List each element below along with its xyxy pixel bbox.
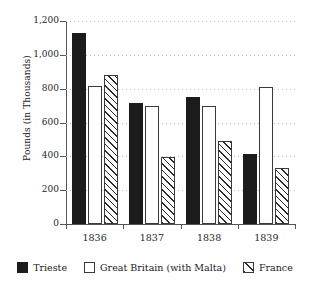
- y-tick-label: 1,200: [19, 15, 59, 25]
- y-tick-mark: [60, 156, 66, 157]
- x-tick-label-1836: 1836: [67, 232, 123, 243]
- y-tick-label: 600: [19, 117, 59, 127]
- y-axis-title: Pounds (in Thousands): [22, 18, 32, 198]
- legend-entry-france: France: [243, 262, 293, 273]
- y-tick-mark: [60, 190, 66, 191]
- y-tick-label: 1,000: [19, 49, 59, 59]
- bar-great-britain-with-malta-1838: [202, 106, 216, 224]
- bar-france-1838: [218, 141, 232, 224]
- x-tick-mark: [181, 224, 182, 229]
- bar-france-1836: [104, 75, 118, 224]
- bar-great-britain-with-malta-1836: [88, 86, 102, 224]
- gridline: [66, 55, 295, 56]
- x-tick-label-1838: 1838: [181, 232, 237, 243]
- bar-trieste-1838: [186, 97, 200, 224]
- x-tick-label-1839: 1839: [238, 232, 294, 243]
- bar-great-britain-with-malta-1839: [259, 87, 273, 224]
- bar-great-britain-with-malta-1837: [145, 106, 159, 224]
- x-tick-mark: [123, 224, 124, 229]
- bar-trieste-1839: [243, 154, 257, 224]
- bar-chart-figure: Pounds (in Thousands) 02004006008001,000…: [0, 0, 310, 285]
- legend-label: Great Britain (with Malta): [100, 262, 226, 273]
- y-tick-label: 200: [19, 184, 59, 194]
- x-tick-label-1837: 1837: [124, 232, 180, 243]
- x-tick-mark: [295, 224, 296, 229]
- legend-swatch-icon: [84, 262, 95, 273]
- y-tick-mark: [60, 21, 66, 22]
- legend-entry-trieste: Trieste: [17, 262, 67, 273]
- y-tick-label: 0: [19, 218, 59, 228]
- legend-label: Trieste: [33, 262, 67, 273]
- x-tick-mark: [238, 224, 239, 229]
- bar-france-1837: [161, 157, 175, 224]
- chart-legend: TriesteGreat Britain (with Malta)France: [0, 256, 310, 278]
- bar-trieste-1836: [72, 33, 86, 224]
- y-tick-mark: [60, 89, 66, 90]
- x-tick-mark: [66, 224, 67, 229]
- legend-swatch-icon: [17, 262, 28, 273]
- legend-label: France: [259, 262, 293, 273]
- y-tick-mark: [60, 55, 66, 56]
- y-tick-mark: [60, 123, 66, 124]
- y-tick-label: 800: [19, 83, 59, 93]
- bar-trieste-1837: [129, 103, 143, 224]
- bar-france-1839: [275, 168, 289, 224]
- gridline: [66, 21, 295, 22]
- legend-swatch-icon: [243, 262, 254, 273]
- y-tick-label: 400: [19, 150, 59, 160]
- legend-entry-great-britain-with-malta: Great Britain (with Malta): [84, 262, 226, 273]
